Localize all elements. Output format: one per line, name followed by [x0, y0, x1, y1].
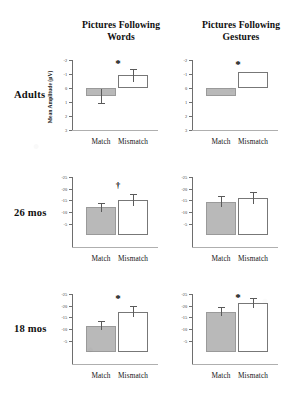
chart-panel-adults-gestures: -2-10123MatchMismatch* — [192, 60, 278, 156]
y-axis-line — [72, 177, 73, 247]
y-axis-line — [72, 294, 73, 364]
y-tick — [189, 341, 192, 342]
y-tick-label: -15 — [170, 198, 187, 203]
category-label-mismatch: Mismatch — [111, 137, 155, 146]
y-axis-line — [192, 60, 193, 130]
y-tick — [189, 189, 192, 190]
error-bar — [133, 306, 134, 317]
bar-mismatch — [118, 312, 148, 353]
y-tick — [69, 306, 72, 307]
y-tick-label: 2 — [50, 114, 67, 119]
bar-mismatch — [238, 303, 268, 352]
error-bar — [101, 89, 102, 103]
error-bar — [101, 321, 102, 330]
x-axis-line — [72, 364, 158, 365]
y-tick — [69, 177, 72, 178]
error-bar-cap — [250, 298, 257, 299]
category-label-mismatch: Mismatch — [231, 137, 275, 146]
y-tick-label: -15 — [170, 315, 187, 320]
error-bar-cap — [98, 103, 105, 104]
y-tick-label: -20 — [50, 303, 67, 308]
y-axis-line — [192, 177, 193, 247]
column-title-words-line1: Pictures Following — [82, 19, 160, 30]
column-title-gestures: Pictures Following Gestures — [186, 19, 296, 42]
error-bar — [101, 203, 102, 212]
y-tick — [69, 88, 72, 89]
y-tick-label: -20 — [170, 303, 187, 308]
error-bar-cap — [130, 69, 137, 70]
y-tick — [69, 102, 72, 103]
column-title-words-line2: Words — [107, 31, 135, 42]
row-label-26-mos: 26 mos — [14, 207, 47, 218]
y-tick-label: -2 — [50, 58, 67, 63]
x-axis-line — [72, 247, 158, 248]
y-tick — [189, 74, 192, 75]
y-tick — [189, 294, 192, 295]
significance-marker: * — [110, 293, 126, 304]
y-tick-label: -20 — [50, 186, 67, 191]
y-tick-label: -10 — [50, 327, 67, 332]
error-bar — [253, 192, 254, 203]
x-axis-line — [192, 247, 278, 248]
y-tick-label: -5 — [50, 338, 67, 343]
error-bar-cap — [218, 196, 225, 197]
error-bar-cap — [98, 203, 105, 204]
y-tick-label: -25 — [170, 292, 187, 297]
y-tick — [69, 341, 72, 342]
y-tick-label: -15 — [50, 315, 67, 320]
y-tick-label: -5 — [50, 221, 67, 226]
y-tick-label: -15 — [50, 198, 67, 203]
row-label-adults: Adults — [14, 89, 45, 100]
row-label-18-mos: 18 mos — [14, 323, 47, 334]
column-title-gestures-line1: Pictures Following — [202, 19, 280, 30]
error-bar — [133, 194, 134, 206]
y-tick-label: -5 — [170, 338, 187, 343]
chart-panel-mos26-words: -25-20-15-10-5MatchMismatch† — [72, 177, 158, 273]
error-bar — [221, 307, 222, 315]
y-tick — [189, 116, 192, 117]
y-tick-label: -20 — [170, 186, 187, 191]
y-tick — [189, 60, 192, 61]
error-bar — [133, 69, 134, 82]
error-bar — [221, 196, 222, 206]
y-tick — [189, 177, 192, 178]
y-tick — [69, 200, 72, 201]
error-bar-cap — [130, 306, 137, 307]
y-tick — [69, 224, 72, 225]
y-tick-label: 1 — [170, 100, 187, 105]
y-tick-label: -2 — [170, 58, 187, 63]
y-axis-title: Mean Amplitude (µV) — [47, 0, 53, 60]
y-tick — [69, 189, 72, 190]
y-tick-label: -25 — [50, 175, 67, 180]
y-tick — [69, 212, 72, 213]
chart-panel-mos26-gestures: -25-20-15-10-5MatchMismatch — [192, 177, 278, 273]
bar-mismatch — [238, 72, 268, 88]
y-tick-label: -5 — [170, 221, 187, 226]
y-tick — [69, 60, 72, 61]
y-tick-label: 0 — [170, 86, 187, 91]
chart-panel-mos18-words: -25-20-15-10-5MatchMismatch* — [72, 294, 158, 390]
y-tick-label: -25 — [170, 175, 187, 180]
y-tick — [189, 329, 192, 330]
bar-mismatch — [238, 198, 268, 235]
figure-canvas: Pictures Following Words Pictures Follow… — [0, 0, 301, 407]
y-tick — [189, 102, 192, 103]
y-tick — [189, 212, 192, 213]
chart-panel-mos18-gestures: -25-20-15-10-5MatchMismatch* — [192, 294, 278, 390]
x-axis-line — [192, 364, 278, 365]
y-tick-label: 2 — [170, 114, 187, 119]
bar-match — [206, 312, 236, 353]
y-tick — [189, 306, 192, 307]
significance-marker: * — [110, 58, 126, 69]
y-tick-label: -10 — [170, 327, 187, 332]
category-label-mismatch: Mismatch — [231, 254, 275, 263]
significance-marker: * — [230, 59, 246, 70]
category-label-mismatch: Mismatch — [111, 371, 155, 380]
y-axis-line — [72, 60, 73, 130]
y-tick-label: -10 — [170, 210, 187, 215]
error-bar-cap — [250, 192, 257, 193]
y-tick-label: 0 — [50, 86, 67, 91]
chart-panel-adults-words: -2-10123MatchMismatch* — [72, 60, 158, 156]
significance-marker: † — [110, 181, 126, 190]
column-title-words: Pictures Following Words — [66, 19, 176, 42]
